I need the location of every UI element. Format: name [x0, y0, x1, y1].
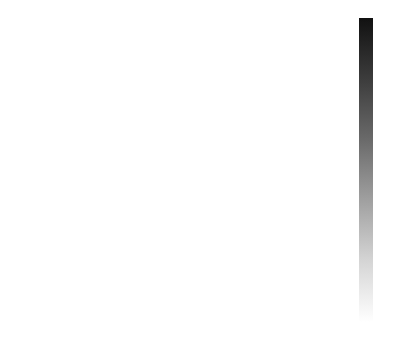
- colorbar: [359, 18, 373, 322]
